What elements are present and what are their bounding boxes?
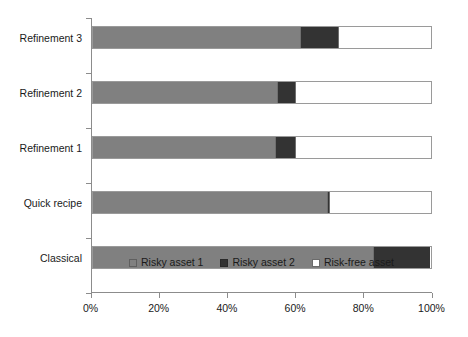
y-axis-label-refinement-2: Refinement 2 [0, 87, 82, 99]
x-axis-label-40: 40% [197, 302, 257, 315]
y-axis-label-quick-recipe: Quick recipe [0, 197, 82, 209]
bar-refinement-2 [92, 81, 432, 104]
bar-segment-risky-asset-1 [93, 82, 277, 103]
riskfree-swatch-icon [312, 259, 320, 267]
legend-item-risky-asset-1: Risky asset 1 [129, 256, 203, 269]
bar-segment-risk-free-asset [295, 82, 430, 103]
x-axis-label-0: 0% [61, 302, 121, 315]
x-axis-label-80: 80% [333, 302, 393, 315]
bar-quick-recipe [92, 191, 432, 214]
legend-item-risky-asset-2: Risky asset 2 [220, 256, 294, 269]
bar-segment-risky-asset-2 [300, 27, 337, 48]
legend-label-risk-free-asset: Risk-free asset [324, 256, 394, 269]
x-axis-tick [91, 293, 92, 298]
chart-legend: Risky asset 1 Risky asset 2 Risk-free as… [129, 256, 394, 269]
x-axis-label-20: 20% [129, 302, 189, 315]
x-axis-label-100: 100% [402, 302, 462, 315]
x-axis-label-60: 60% [265, 302, 325, 315]
y-axis-label-refinement-1: Refinement 1 [0, 142, 82, 154]
y-axis-label-refinement-3: Refinement 3 [0, 32, 82, 44]
legend-label-risky-asset-2: Risky asset 2 [232, 256, 294, 269]
bar-segment-risky-asset-1 [93, 192, 328, 213]
bar-segment-risk-free-asset [329, 192, 430, 213]
x-axis-tick [363, 293, 364, 298]
bar-segment-risky-asset-1 [93, 27, 301, 48]
bar-segment-risky-asset-2 [277, 82, 296, 103]
x-axis-tick [227, 293, 228, 298]
x-axis-tick [432, 293, 433, 298]
bar-segment-risk-free-asset [295, 137, 430, 158]
bar-segment-risk-free-asset [338, 27, 431, 48]
y-axis-label-classical: Classical [0, 252, 82, 264]
stacked-bar-chart: Refinement 3 Refinement 2 Refinement 1 Q… [0, 0, 468, 337]
plot-area [91, 18, 432, 293]
legend-item-risk-free-asset: Risk-free asset [312, 256, 394, 269]
bar-segment-risky-asset-2 [275, 137, 295, 158]
bar-refinement-3 [92, 26, 432, 49]
bar-refinement-1 [92, 136, 432, 159]
risky1-swatch-icon [129, 259, 137, 267]
legend-label-risky-asset-1: Risky asset 1 [141, 256, 203, 269]
bar-segment-risky-asset-1 [93, 137, 276, 158]
risky2-swatch-icon [220, 259, 228, 267]
x-axis-tick [159, 293, 160, 298]
x-axis-tick [295, 293, 296, 298]
